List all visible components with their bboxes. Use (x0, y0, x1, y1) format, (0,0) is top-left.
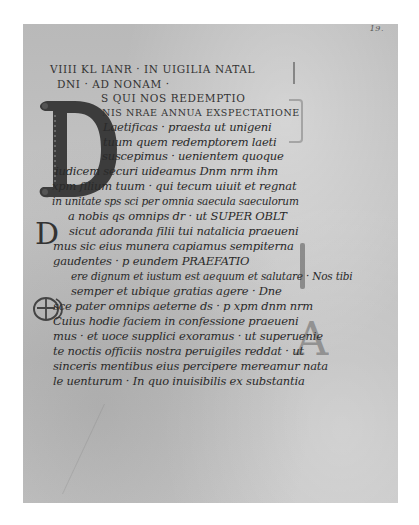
text-line: a nobis qs omnips dr · ut SUPER OBLT (68, 209, 287, 223)
text-line: iudicem securi uideamus Dnm nrm ihm (55, 164, 278, 178)
text-line: Cuius hodie faciem in confessione praeue… (53, 314, 299, 328)
parchment-crease (62, 404, 265, 494)
folio-number: 19. (370, 24, 384, 33)
text-line: NIS NRAE ANNUA EXSPECTATIONE (102, 106, 300, 120)
text-line: S QUI NOS REDEMPTIO (101, 91, 245, 105)
text-line: DNI · AD NONAM · (57, 77, 170, 91)
margin-mark (293, 62, 299, 84)
text-line: VIIII KL IANR · IN UIGILIA NATAL (50, 62, 255, 76)
text-line: sicut adoranda filii tui natalicia praeu… (69, 224, 298, 238)
text-line: ere dignum et iustum est aequum et salut… (71, 269, 353, 283)
text-line: gaudentes · p eundem PRAEFATIO (53, 254, 249, 268)
text-line: mus sic eius munera capiamus sempiterna (53, 239, 294, 253)
manuscript-folio: 19. A D VIIII KL IANR · IN UIGILIA NATAL… (23, 24, 398, 503)
text-line: suscepimus · uenientem quoque (102, 149, 284, 163)
text-line: te noctis officiis nostra peruigiles red… (53, 344, 304, 358)
text-line: xpm filium tuum · qui tecum uiuit et reg… (52, 179, 296, 193)
text-line: le uenturum · In quo inuisibilis ex subs… (53, 374, 305, 388)
text-line: sce pater omnips aeterne ds · p xpm dnm … (53, 299, 313, 313)
text-line: in unitate sps sci per omnia saecula sae… (52, 194, 299, 208)
text-line: sinceris mentibus eius percipere mereamu… (53, 359, 328, 373)
text-line: mus · et uoce supplici exoramus · ut sup… (53, 329, 323, 343)
text-line: tuum quem redemptorem laeti (103, 135, 277, 149)
text-line: semper et ubique gratias agere · Dne (71, 284, 282, 298)
text-line: Laetificas · praesta ut unigeni (103, 120, 271, 134)
